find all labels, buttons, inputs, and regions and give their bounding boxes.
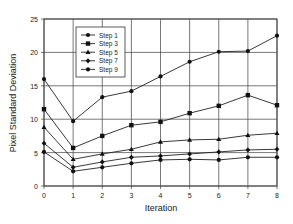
data-point-marker [275,131,280,135]
data-point-marker [275,155,279,159]
data-point-marker [42,150,46,154]
y-tick-label: 0 [34,183,38,190]
data-point-marker [275,147,280,152]
data-point-marker [129,89,133,93]
data-point-marker [42,107,46,111]
y-tick-label: 25 [30,16,38,23]
x-tick-label: 5 [188,192,192,199]
y-axis-label: Pixel Standard Deviation [8,54,18,153]
x-tick-label: 1 [71,192,75,199]
data-point-marker [187,151,192,156]
data-point-marker [217,50,221,54]
data-point-marker [129,155,134,160]
x-axis-label: Iteration [145,203,178,213]
data-point-marker [188,157,192,161]
data-point-marker [275,34,279,38]
data-point-marker [100,159,105,164]
data-point-marker [86,33,90,37]
legend-label: Step 1 [99,32,118,40]
x-tick-label: 7 [246,192,250,199]
data-point-marker [86,41,90,45]
data-point-marker [246,49,250,53]
data-point-marker [100,134,104,138]
line-chart: 0510152025 012345678 Pixel Standard Devi… [0,0,293,224]
legend-label: Step 3 [99,40,118,48]
x-axis-ticks: 012345678 [42,192,279,199]
data-point-marker [158,120,162,124]
legend-label: Step 5 [99,49,118,57]
data-point-marker [100,95,104,99]
legend-label: Step 9 [99,66,118,74]
data-point-marker [245,147,250,152]
data-point-marker [71,119,75,123]
data-point-marker [158,74,162,78]
data-point-marker [217,104,221,108]
data-point-marker [246,93,250,97]
data-point-marker [42,77,46,81]
data-point-marker [158,158,162,162]
y-tick-label: 10 [30,116,38,123]
data-point-marker [129,123,133,127]
x-tick-label: 6 [217,192,221,199]
data-point-marker [187,111,191,115]
data-point-marker [217,158,221,162]
data-point-marker [71,146,75,150]
legend: Step 1Step 3Step 5Step 7Step 9 [76,27,125,77]
y-tick-label: 5 [34,150,38,157]
data-point-marker [246,155,250,159]
x-tick-label: 3 [129,192,133,199]
x-tick-label: 4 [159,192,163,199]
data-point-marker [158,153,163,158]
data-point-marker [216,149,221,154]
data-point-marker [275,103,279,107]
data-point-marker [188,60,192,64]
y-tick-label: 20 [30,49,38,56]
y-tick-label: 15 [30,83,38,90]
data-point-marker [71,169,75,173]
x-tick-label: 2 [100,192,104,199]
x-tick-label: 0 [42,192,46,199]
y-axis-ticks: 0510152025 [30,16,38,190]
legend-label: Step 7 [99,57,118,65]
x-tick-label: 8 [275,192,279,199]
data-point-marker [42,125,47,129]
data-point-marker [129,161,133,165]
data-point-marker [86,67,90,71]
data-point-marker [100,165,104,169]
